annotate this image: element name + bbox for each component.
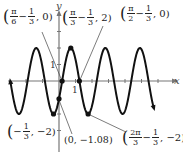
point-max — [68, 45, 73, 50]
label-point-y-intercept: (0, −1.08) — [64, 135, 113, 145]
point-zero-1 — [60, 78, 65, 83]
label-point-zero-1: ( π6 − 13 , 0) — [3, 7, 53, 26]
y-axis-label: y — [56, 0, 62, 11]
label-point-min-1: (− 13 , −2) — [7, 122, 56, 141]
label-point-min-2: ( 2π3 − 13 , −2) — [122, 128, 183, 147]
curve-arrow-right-icon — [151, 105, 156, 111]
x-axis-label: x — [174, 75, 180, 86]
label-point-max: ( π3 − 13 , 2) — [62, 8, 112, 27]
point-zero-2 — [77, 78, 82, 83]
point-min-1 — [51, 111, 56, 116]
label-point-zero-2: ( π2 − 13 , 0) — [120, 4, 170, 23]
point-y-intercept — [56, 96, 61, 101]
x-tick-label-1: 1 — [72, 85, 78, 95]
y-tick-label-1: 1 — [50, 60, 56, 70]
point-min-2 — [86, 111, 91, 116]
